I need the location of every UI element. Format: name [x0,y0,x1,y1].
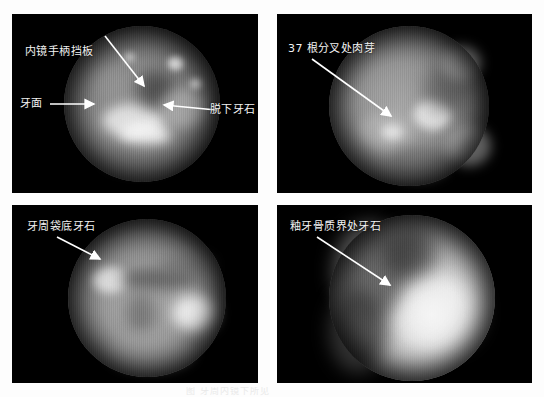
label-tooth-surface: 牙面 [20,97,43,110]
label-furcation-granulation: 37 根分叉处肉芽 [288,42,375,55]
endoscope-view-3 [68,219,226,377]
image-panel-bottom-left[interactable]: 牙周袋底牙石 [12,205,258,383]
label-detached-calculus: 脱下牙石 [210,103,256,116]
bottom-caption: 图 牙周内镜下所见 [186,387,270,397]
label-endoscope-handle-baffle: 内镜手柄挡板 [25,45,93,58]
image-panel-bottom-right[interactable]: 釉牙骨质界处牙石 [277,205,532,383]
image-panel-top-right[interactable]: 37 根分叉处肉芽 [277,14,532,193]
label-cej-calculus: 釉牙骨质界处牙石 [290,220,381,233]
label-pocket-base-calculus: 牙周袋底牙石 [27,220,95,233]
image-panel-top-left[interactable]: 内镜手柄挡板 牙面 脱下牙石 [12,14,258,193]
bottom-caption-strip: 图 牙周内镜下所见 [0,387,544,397]
endoscopy-figure: 内镜手柄挡板 牙面 脱下牙石 37 根分叉处肉芽 [0,0,544,397]
endoscope-view-4 [329,215,495,381]
